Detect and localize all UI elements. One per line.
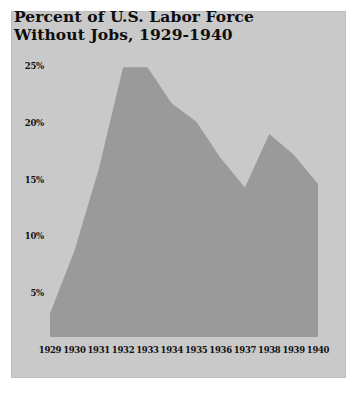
x-axis-tick-1940: 1940 <box>303 345 333 355</box>
chart-panel <box>12 12 345 377</box>
title-line-2: Without Jobs, 1929-1940 <box>14 26 314 44</box>
y-axis-tick-25: 25% <box>12 61 44 71</box>
chart-title: Percent of U.S. Labor Force Without Jobs… <box>14 8 314 44</box>
title-line-1: Percent of U.S. Labor Force <box>14 8 314 26</box>
y-axis-tick-20: 20% <box>12 118 44 128</box>
figure-canvas: Percent of U.S. Labor Force Without Jobs… <box>0 0 362 393</box>
x-axis: 1929193019311932193319341935193619371938… <box>12 345 345 361</box>
y-axis-tick-15: 15% <box>12 175 44 185</box>
y-axis-tick-10: 10% <box>12 231 44 241</box>
y-axis-tick-5: 5% <box>12 288 44 298</box>
